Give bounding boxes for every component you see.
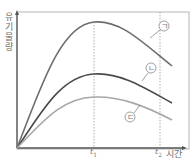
curve-b — [17, 74, 172, 148]
t1-subscript: 1 — [93, 151, 97, 158]
curve-b-leader — [142, 73, 148, 81]
curve-c — [17, 97, 172, 148]
svg-text:ㄷ: ㄷ — [127, 113, 134, 122]
curve-a — [17, 22, 172, 148]
curve-a-label: ㄱ — [159, 21, 169, 31]
plot-frame — [17, 12, 189, 149]
curve-c-label: ㄷ — [125, 112, 135, 122]
x-axis-label: 시간 — [166, 147, 182, 160]
svg-text:ㄱ: ㄱ — [161, 22, 168, 31]
t2-subscript: 2 — [158, 151, 162, 158]
t2-tick-label: t2 — [155, 147, 162, 158]
t1-tick-label: t1 — [90, 147, 97, 158]
curve-b-label: ㄴ — [146, 63, 156, 73]
chart-plot: ㄱ ㄴ ㄷ — [0, 0, 194, 160]
curve-c-leader — [134, 105, 140, 113]
svg-text:ㄴ: ㄴ — [148, 64, 155, 73]
curve-a-leader — [150, 30, 160, 38]
